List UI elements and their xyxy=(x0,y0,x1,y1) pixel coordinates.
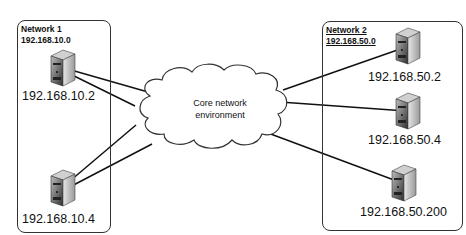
network-2-header: Network 2 192.168.50.0 xyxy=(326,25,376,47)
network-2-subnet: 192.168.50.0 xyxy=(326,36,376,46)
network-1-title: Network 1 xyxy=(21,24,71,35)
server-icon xyxy=(47,48,77,88)
cloud-label-line2: environment xyxy=(180,109,260,121)
network-1-subnet: 192.168.10.0 xyxy=(21,35,71,46)
host-label-192-168-50-200: 192.168.50.200 xyxy=(360,205,447,219)
cloud-label: Core network environment xyxy=(180,97,260,121)
network-2-title: Network 2 xyxy=(326,25,367,35)
server-icon xyxy=(392,90,422,132)
host-label-192-168-50-2: 192.168.50.2 xyxy=(368,70,441,84)
host-label-192-168-10-2: 192.168.10.2 xyxy=(22,89,95,103)
server-icon xyxy=(392,25,422,67)
server-icon xyxy=(47,168,77,208)
server-icon xyxy=(388,162,418,204)
cloud-label-line1: Core network xyxy=(180,97,260,109)
network-1-header: Network 1 192.168.10.0 xyxy=(21,24,71,46)
host-label-192-168-50-4: 192.168.50.4 xyxy=(368,133,441,147)
host-label-192-168-10-4: 192.168.10.4 xyxy=(22,212,95,226)
